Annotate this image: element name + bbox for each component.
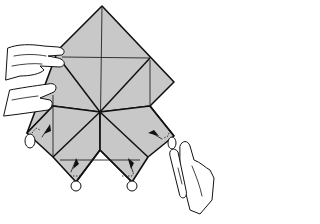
lower-right-flap — [100, 106, 174, 182]
right-hand — [170, 142, 214, 215]
